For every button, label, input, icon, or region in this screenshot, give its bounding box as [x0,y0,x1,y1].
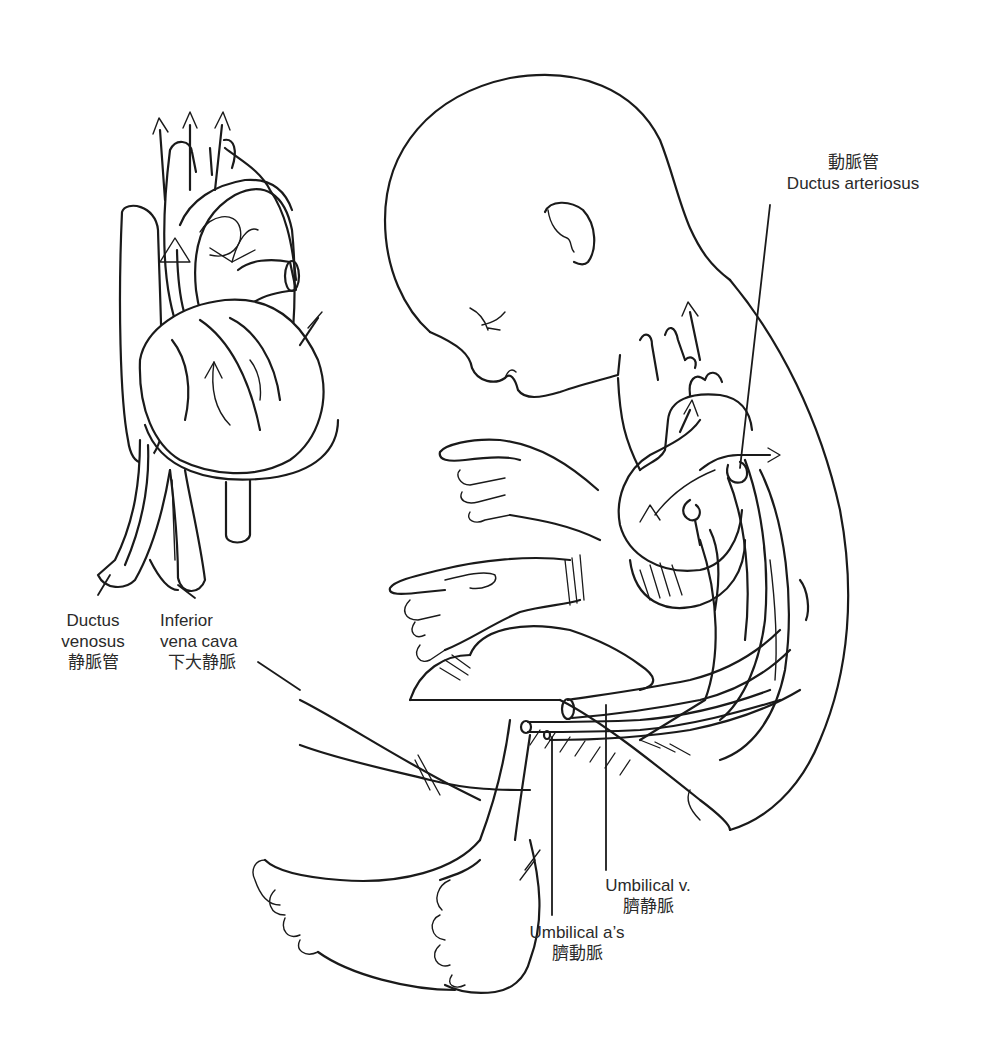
label-umbilical-vein: Umbilical v. 臍静脈 [588,875,708,917]
label-ivc-zh: 下大静脈 [160,652,270,673]
label-ductus-venosus-zh: 静脈管 [48,652,138,673]
label-ductus-arteriosus-en: Ductus arteriosus [768,173,938,194]
label-ductus-venosus: Ductus venosus 静脈管 [48,610,138,673]
label-ivc-en-1: Inferior [160,610,270,631]
label-umbilical-arteries-en: Umbilical a’s [512,922,642,943]
label-ivc-en-2: vena cava [160,631,270,652]
fetus-outline [253,75,848,993]
label-umbilical-arteries: Umbilical a’s 臍動脈 [512,922,642,964]
leader-lines [258,205,770,915]
label-ductus-arteriosus-zh: 動脈管 [768,152,938,173]
label-umbilical-arteries-zh: 臍動脈 [512,943,642,964]
fetal-circulation-figure: 動脈管 Ductus arteriosus Ductus venosus 静脈管… [0,0,988,1061]
label-ductus-venosus-en-1: Ductus [48,610,138,631]
label-inferior-vena-cava: Inferior vena cava 下大静脈 [160,610,270,673]
label-ductus-arteriosus: 動脈管 Ductus arteriosus [768,152,938,194]
ear [545,203,594,265]
umbilical-cord [521,630,800,755]
ductus-arteriosus-leader [740,205,770,468]
heart-detail-diagram [98,112,338,598]
label-umbilical-vein-en: Umbilical v. [588,875,708,896]
label-umbilical-vein-zh: 臍静脈 [588,896,708,917]
label-ductus-venosus-en-2: venosus [48,631,138,652]
